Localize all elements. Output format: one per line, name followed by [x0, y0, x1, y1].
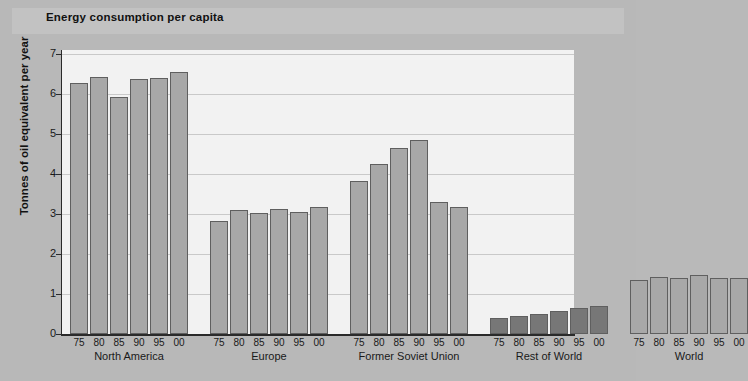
bar: [510, 316, 528, 334]
group-label: Former Soviet Union: [350, 350, 468, 362]
group-label: Europe: [210, 350, 328, 362]
bar: [210, 221, 228, 334]
y-tick-mark: [56, 254, 61, 255]
bar: [230, 210, 248, 334]
bar: [250, 213, 268, 334]
x-tick-label: 75: [630, 337, 648, 348]
bar: [150, 78, 168, 334]
y-tick-mark: [56, 134, 61, 135]
bar: [70, 83, 88, 334]
bar: [690, 275, 708, 334]
bar: [410, 140, 428, 334]
y-tick-mark: [56, 294, 61, 295]
y-tick-label: 7: [44, 47, 56, 59]
x-axis-line: [61, 334, 575, 336]
bar: [350, 181, 368, 334]
bar: [550, 311, 568, 334]
x-tick-label: 95: [570, 337, 588, 348]
x-tick-label: 85: [250, 337, 268, 348]
bar: [670, 278, 688, 334]
x-tick-label: 85: [390, 337, 408, 348]
bar: [630, 280, 648, 334]
y-axis-line: [61, 50, 62, 335]
x-tick-label: 00: [170, 337, 188, 348]
bar: [430, 202, 448, 334]
y-tick-label: 2: [44, 247, 56, 259]
bar: [110, 97, 128, 334]
y-axis-label: Tonnes of oil equivalent per year: [18, 16, 30, 236]
x-tick-label: 80: [230, 337, 248, 348]
x-tick-label: 00: [730, 337, 748, 348]
x-tick-label: 80: [90, 337, 108, 348]
y-tick-mark: [56, 54, 61, 55]
bar: [390, 148, 408, 334]
bar: [90, 77, 108, 334]
group-label: Rest of World: [490, 350, 608, 362]
bar: [590, 306, 608, 334]
x-tick-label: 95: [430, 337, 448, 348]
bar: [650, 277, 668, 334]
y-tick-label: 0: [44, 327, 56, 339]
y-tick-label: 1: [44, 287, 56, 299]
x-tick-label: 90: [690, 337, 708, 348]
bar: [530, 314, 548, 334]
x-tick-label: 00: [450, 337, 468, 348]
group-label: World: [630, 350, 748, 362]
bar: [370, 164, 388, 334]
x-tick-label: 90: [550, 337, 568, 348]
gridline: [62, 54, 574, 55]
x-tick-label: 85: [530, 337, 548, 348]
x-tick-label: 90: [130, 337, 148, 348]
bar: [490, 318, 508, 334]
bar: [310, 207, 328, 334]
x-tick-label: 00: [590, 337, 608, 348]
y-tick-label: 4: [44, 167, 56, 179]
x-tick-label: 75: [350, 337, 368, 348]
y-tick-mark: [56, 214, 61, 215]
x-tick-label: 00: [310, 337, 328, 348]
group-label: North America: [70, 350, 188, 362]
y-tick-label: 3: [44, 207, 56, 219]
bar: [130, 79, 148, 334]
x-tick-label: 95: [150, 337, 168, 348]
x-tick-label: 95: [710, 337, 728, 348]
x-tick-label: 90: [270, 337, 288, 348]
x-tick-label: 75: [490, 337, 508, 348]
x-tick-label: 75: [70, 337, 88, 348]
x-tick-label: 75: [210, 337, 228, 348]
x-tick-label: 80: [510, 337, 528, 348]
bar: [710, 278, 728, 334]
y-tick-label: 5: [44, 127, 56, 139]
x-tick-label: 85: [670, 337, 688, 348]
bar: [730, 278, 748, 334]
x-tick-label: 95: [290, 337, 308, 348]
bar: [290, 212, 308, 334]
y-tick-mark: [56, 334, 61, 335]
y-tick-label: 6: [44, 87, 56, 99]
y-tick-mark: [56, 94, 61, 95]
x-tick-label: 80: [370, 337, 388, 348]
bar: [570, 308, 588, 334]
bar: [270, 209, 288, 334]
bar: [170, 72, 188, 334]
bar: [450, 207, 468, 334]
y-tick-mark: [56, 174, 61, 175]
x-tick-label: 90: [410, 337, 428, 348]
x-tick-label: 80: [650, 337, 668, 348]
chart-title: Energy consumption per capita: [46, 11, 224, 23]
x-tick-label: 85: [110, 337, 128, 348]
